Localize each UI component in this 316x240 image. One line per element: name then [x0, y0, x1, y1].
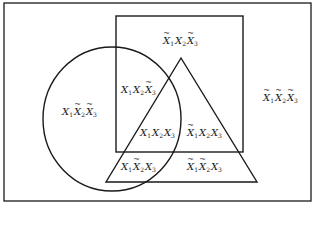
region-label-x1-x2-n3: X1X2X3	[121, 85, 157, 96]
set-x1-circle	[43, 47, 181, 191]
region-label-n1-n2-x3: X1X2X3	[187, 162, 223, 173]
region-label-n1-x2-n3: X1X2X3	[163, 36, 199, 47]
region-label-x1-n2-x3: X1X2X3	[121, 162, 157, 173]
region-label-x1-n2-n3: X1X2X3	[62, 107, 98, 118]
region-label-x1-x2-x3: X1X2X3	[140, 128, 176, 139]
region-label-n1-n2-n3: X1X2X3	[263, 93, 299, 104]
region-label-n1-x2-x3: X1X2X3	[187, 128, 223, 139]
